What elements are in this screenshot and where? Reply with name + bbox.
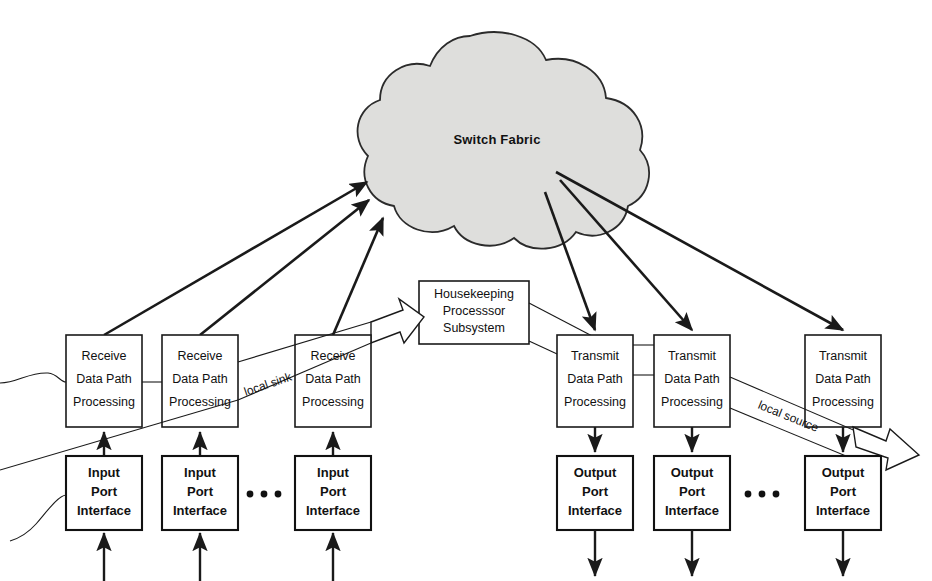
external-ingress-arrows xyxy=(104,533,333,581)
transmit-box-2-line-1: Transmit xyxy=(668,349,717,363)
input-port-1-line-3: Interface xyxy=(77,503,131,518)
receive-box-3-line-1: Receive xyxy=(310,349,355,363)
input-port-3-line-1: Input xyxy=(317,465,349,480)
input-port-2-line-3: Interface xyxy=(173,503,227,518)
input-port-interface-box-3[interactable]: Input Port Interface xyxy=(295,456,371,530)
output-port-1-line-3: Interface xyxy=(568,503,622,518)
input-port-2-line-1: Input xyxy=(184,465,216,480)
receive-data-path-processing-box-2[interactable]: Receive Data Path Processing xyxy=(162,335,238,427)
receive-data-path-processing-box-1[interactable]: Receive Data Path Processing xyxy=(66,335,142,427)
local-sink-block-arrow-shape xyxy=(371,299,424,343)
output-port-3-line-1: Output xyxy=(822,465,865,480)
transmit-box-3-line-2: Data Path xyxy=(815,372,871,386)
housekeeping-line-1: Housekeeping xyxy=(434,287,514,301)
output-ellipsis-dot-1 xyxy=(745,491,752,498)
input-left-edge-curve-group xyxy=(10,495,66,541)
receive-box-3-line-3: Processing xyxy=(302,395,364,409)
input-port-interface-box-2[interactable]: Input Port Interface xyxy=(162,456,238,530)
output-port-ellipsis xyxy=(745,491,780,498)
output-port-interface-box-2[interactable]: Output Port Interface xyxy=(654,456,730,530)
housekeeping-line-2: Processsor xyxy=(443,304,506,318)
receive-box-3-line-2: Data Path xyxy=(305,372,361,386)
input-ellipsis-dot-1 xyxy=(247,491,254,498)
input-to-receive-arrows xyxy=(104,432,333,456)
transmit-box-1-line-2: Data Path xyxy=(567,372,623,386)
transmit-data-path-processing-box-3[interactable]: Transmit Data Path Processing xyxy=(805,335,881,427)
receive-box-1-line-2: Data Path xyxy=(76,372,132,386)
input-port-1-line-1: Input xyxy=(88,465,120,480)
output-ellipsis-dot-3 xyxy=(773,491,780,498)
input-port-ellipsis xyxy=(247,491,282,498)
input-port-3-line-3: Interface xyxy=(306,503,360,518)
input-port-1-line-2: Port xyxy=(91,484,118,499)
transmit-box-1-line-1: Transmit xyxy=(571,349,620,363)
receive-box-1-line-3: Processing xyxy=(73,395,135,409)
receive-box-2-line-3: Processing xyxy=(169,395,231,409)
local-sink-block-arrow xyxy=(371,299,424,343)
input-left-edge-curve xyxy=(10,495,66,541)
receive-data-path-processing-box-3[interactable]: Receive Data Path Processing xyxy=(295,335,371,427)
input-port-interface-box-1[interactable]: Input Port Interface xyxy=(66,456,142,530)
receive-to-fabric-arrow-3 xyxy=(333,218,383,335)
fabric-to-transmit-arrow-3 xyxy=(556,172,843,330)
output-port-interface-box-3[interactable]: Output Port Interface xyxy=(805,456,881,530)
receive-to-fabric-arrow-2 xyxy=(200,200,369,335)
output-port-3-line-2: Port xyxy=(830,484,857,499)
external-egress-arrows xyxy=(595,530,843,576)
transmit-box-3-line-1: Transmit xyxy=(819,349,868,363)
output-port-3-line-3: Interface xyxy=(816,503,870,518)
receive-box-2-line-2: Data Path xyxy=(172,372,228,386)
local-sink-label: local sink xyxy=(242,369,294,399)
transmit-box-2-line-3: Processing xyxy=(661,395,723,409)
transmit-data-path-processing-box-2[interactable]: Transmit Data Path Processing xyxy=(654,335,730,427)
housekeeping-line-3: Subsystem xyxy=(443,321,505,335)
transmit-data-path-processing-box-1[interactable]: Transmit Data Path Processing xyxy=(557,335,633,427)
housekeeping-processor-subsystem-box[interactable]: Housekeeping Processsor Subsystem xyxy=(419,281,529,344)
receive-left-edge-curve xyxy=(0,373,66,383)
transmit-box-2-line-2: Data Path xyxy=(664,372,720,386)
output-ellipsis-dot-2 xyxy=(759,491,766,498)
output-port-2-line-2: Port xyxy=(679,484,706,499)
output-port-1-line-1: Output xyxy=(574,465,617,480)
input-port-3-line-2: Port xyxy=(320,484,347,499)
router-architecture-diagram: Switch Fabric Housekeeping Processsor Su… xyxy=(0,0,932,581)
output-port-2-line-3: Interface xyxy=(665,503,719,518)
transmit-box-1-line-3: Processing xyxy=(564,395,626,409)
output-port-2-line-1: Output xyxy=(671,465,714,480)
receive-box-2-line-1: Receive xyxy=(177,349,222,363)
switch-fabric-cloud[interactable]: Switch Fabric xyxy=(358,32,650,249)
input-ellipsis-dot-3 xyxy=(275,491,282,498)
transmit-interconnect-stubs xyxy=(633,345,654,375)
receive-to-fabric-arrow-1 xyxy=(104,182,367,335)
transmit-box-3-line-3: Processing xyxy=(812,395,874,409)
cloud-label: Switch Fabric xyxy=(453,132,540,147)
input-port-2-line-2: Port xyxy=(187,484,214,499)
input-ellipsis-dot-2 xyxy=(261,491,268,498)
receive-box-1-line-1: Receive xyxy=(81,349,126,363)
receive-to-fabric-arrows xyxy=(104,182,383,335)
figure-canvas: Switch Fabric Housekeeping Processsor Su… xyxy=(0,0,932,581)
output-port-interface-box-1[interactable]: Output Port Interface xyxy=(557,456,633,530)
output-port-1-line-2: Port xyxy=(582,484,609,499)
